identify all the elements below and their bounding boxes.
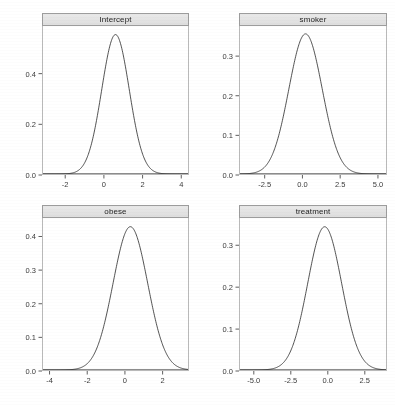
x-tick-label: -2 xyxy=(62,180,69,189)
y-tick-label: 0.1 xyxy=(199,131,233,140)
x-tick-label: -5.0 xyxy=(247,376,260,385)
y-tick-label: 0.1 xyxy=(199,325,233,334)
x-tick-label: 2 xyxy=(140,180,144,189)
y-tick-label: 0.3 xyxy=(199,241,233,250)
panel-grid: Intercept -20240.00.20.4 smoker -2.50.02… xyxy=(0,9,395,405)
panel-treatment: treatment -5.0-2.50.02.50.00.10.20.3 xyxy=(197,201,395,397)
scan-edge-artifact xyxy=(0,0,395,9)
x-tick-label: -2.5 xyxy=(258,180,271,189)
y-tick-label: 0.0 xyxy=(199,367,233,376)
x-tick-label: 0 xyxy=(123,376,127,385)
x-tick-label: 5.0 xyxy=(373,180,383,189)
y-tick-label: 0.4 xyxy=(2,232,36,241)
x-tick-label: -2 xyxy=(84,376,91,385)
panel-obese: obese -4-2020.00.10.20.30.4 xyxy=(0,201,197,397)
y-tick-label: 0.0 xyxy=(199,171,233,180)
y-tick-label: 0.2 xyxy=(199,91,233,100)
y-tick-label: 0.2 xyxy=(199,283,233,292)
y-tick-label: 0.1 xyxy=(2,333,36,342)
y-tick-label: 0.4 xyxy=(2,69,36,78)
x-tick-label: 2 xyxy=(161,376,165,385)
x-tick-label: 0.0 xyxy=(323,376,333,385)
y-tick-label: 0.3 xyxy=(199,52,233,61)
x-tick-label: 0 xyxy=(102,180,106,189)
x-tick-label: 2.5 xyxy=(335,180,345,189)
x-tick-label: 0.0 xyxy=(297,180,307,189)
y-tick-label: 0.2 xyxy=(2,120,36,129)
panel-intercept: Intercept -20240.00.20.4 xyxy=(0,9,197,201)
y-tick-label: 0.3 xyxy=(2,266,36,275)
x-tick-label: -2.5 xyxy=(284,376,297,385)
y-tick-label: 0.2 xyxy=(2,299,36,308)
panel-smoker: smoker -2.50.02.55.00.00.10.20.3 xyxy=(197,9,395,201)
x-tick-label: 4 xyxy=(179,180,183,189)
y-tick-label: 0.0 xyxy=(2,171,36,180)
x-tick-label: -4 xyxy=(46,376,53,385)
x-tick-label: 2.5 xyxy=(360,376,370,385)
y-tick-label: 0.0 xyxy=(2,367,36,376)
